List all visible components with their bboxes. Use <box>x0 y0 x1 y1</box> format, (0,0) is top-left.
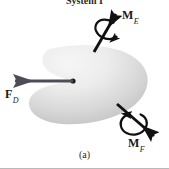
figure-caption: (a) <box>0 150 169 160</box>
moment-vector-me <box>94 14 116 52</box>
label-fd-subscript: D <box>13 96 19 105</box>
label-mf-symbol: M <box>128 136 139 150</box>
figure-container: System I <box>0 0 169 169</box>
label-me-subscript: E <box>134 17 139 26</box>
rigid-body-blob <box>29 45 148 124</box>
bottom-divider <box>0 168 169 169</box>
label-me-symbol: M <box>122 8 133 22</box>
label-fd-symbol: F <box>5 87 12 101</box>
label-moment-me: ME <box>122 9 138 24</box>
label-force-fd: FD <box>5 88 18 103</box>
moment-vector-mf <box>117 104 154 136</box>
